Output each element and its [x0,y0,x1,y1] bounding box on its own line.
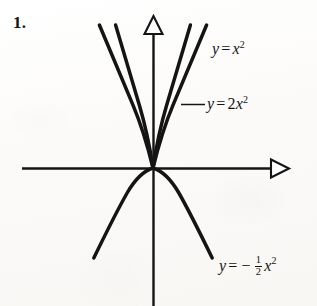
label1-variable: x [233,40,240,57]
label1-equals: = [219,40,232,57]
curve-label-y-equals-negative-half-x-squared: y=−12x2 [219,255,277,277]
label3-fraction-one-half: 12 [255,255,262,277]
y-axis-arrowhead-icon [145,16,163,34]
x-axis-arrowhead-icon [271,160,289,178]
label2-coefficient: 2 [228,95,236,112]
curve-label-y-equals-x-squared: y=x2 [212,41,245,57]
label3-minus-sign: − [240,257,253,274]
label3-equals: = [226,257,239,274]
label3-variable: x [264,257,271,274]
label3-exponent: 2 [272,255,277,266]
label2-exponent: 2 [243,94,248,105]
curve-label-y-equals-2x-squared: y=2x2 [207,96,248,112]
label2-variable: x [236,95,243,112]
label3-numerator: 1 [255,255,262,266]
label1-exponent: 2 [240,39,245,50]
label2-equals: = [214,95,227,112]
item-number: 1. [13,14,26,31]
label3-denominator: 2 [255,266,262,278]
parabola-figure: 1. y=x2 y=2x2 y=−12x2 [0,0,317,306]
